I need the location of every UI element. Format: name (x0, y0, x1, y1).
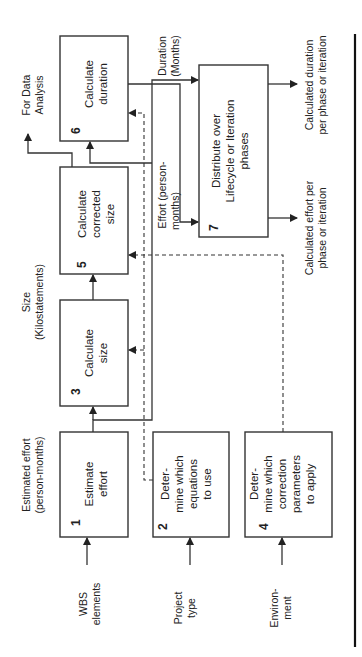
label-line: type (185, 598, 197, 618)
box-6-line: duration (97, 63, 109, 105)
label-line: Size (20, 292, 32, 313)
box-1-line: Estimate (83, 462, 95, 507)
label-line: For Data (20, 74, 32, 115)
box-7-line: Lifecycle or Iteration (224, 100, 236, 203)
output-duration-per-phase: Calculated duration per phase or iterati… (303, 35, 328, 134)
label-size: Size (Kilostatements) (20, 264, 45, 340)
box-2-line: to use (201, 468, 213, 499)
box-3-line: size (97, 343, 109, 363)
output-effort-per-phase: Calculated effort per phase or iteration (303, 180, 328, 275)
label-line: WBS (77, 592, 89, 616)
box-3-number: 3 (69, 388, 83, 395)
box-6-number: 6 (69, 127, 83, 134)
flowchart-diagram: 1 Estimate effort 2 Deter- mine which eq… (0, 0, 362, 657)
input-environment-label: Environ- ment (268, 588, 293, 628)
input-wbs-label: WBS elements (77, 583, 102, 626)
box-2-line: mine which (173, 455, 185, 513)
box-5-line: size (104, 204, 116, 224)
box-4-line: mine which (262, 455, 274, 513)
box-3-line: Calculate (83, 329, 95, 377)
label-line: ment (281, 596, 293, 619)
label-line: Project (172, 592, 184, 625)
box-1-line: effort (97, 470, 109, 497)
box-5-line: corrected (90, 190, 102, 238)
label-line: (Months) (169, 35, 181, 76)
box-2-line: equations (187, 459, 199, 509)
label-line: Environ- (268, 588, 280, 628)
box-2-number: 2 (156, 523, 170, 530)
label-line: Effort (person- (156, 161, 168, 228)
label-effort: Effort (person- months) (156, 161, 181, 230)
box-7-number: 7 (207, 224, 221, 231)
box-5-line: Calculate (76, 190, 88, 238)
box-4-line: parameters (290, 455, 302, 513)
box-1-number: 1 (69, 519, 83, 526)
box-7-line: Distribute over (210, 114, 222, 188)
box-6-line: Calculate (83, 60, 95, 108)
label-estimated-effort: Estimated effort (person-months) (20, 436, 45, 513)
input-project-type-label: Project type (172, 592, 197, 625)
box-4-line: Deter- (248, 468, 260, 500)
label-line: months) (169, 192, 181, 230)
label-line: (person-months) (33, 436, 45, 513)
box-7-line: phases (238, 132, 250, 169)
label-for-data-analysis: For Data Analysis (20, 74, 45, 115)
label-line: per phase or iteration (316, 35, 328, 134)
label-line: Analysis (33, 75, 45, 114)
box-4-line: to apply (304, 464, 316, 505)
label-line: Estimated effort (20, 438, 32, 511)
label-line: Calculated effort per (303, 180, 315, 275)
box-2-line: Deter- (159, 468, 171, 500)
label-line: (Kilostatements) (33, 264, 45, 340)
box-4-line: correction (276, 459, 288, 510)
label-line: Calculated duration (303, 40, 315, 131)
box-4-number: 4 (257, 523, 271, 530)
arrow-effort-to-box6 (90, 142, 152, 163)
label-line: elements (90, 583, 102, 626)
label-line: phase or iteration (316, 187, 328, 268)
dashed-box2-to-box6 (129, 113, 153, 480)
label-line: Duration (156, 36, 168, 76)
box-5-number: 5 (75, 261, 89, 268)
label-duration: Duration (Months) (156, 35, 181, 76)
